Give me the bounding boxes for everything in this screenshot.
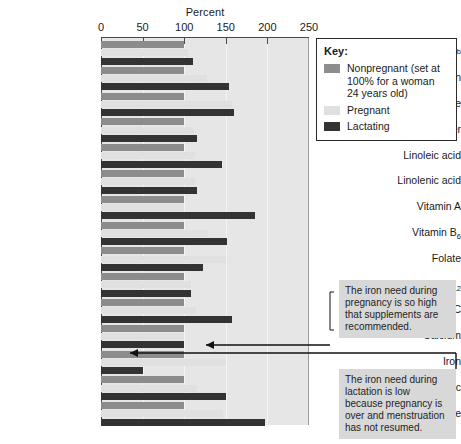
legend-swatch-nonpregnant bbox=[324, 64, 340, 73]
bar bbox=[101, 170, 184, 177]
bar bbox=[101, 161, 222, 168]
bar bbox=[101, 41, 184, 48]
bar bbox=[101, 204, 184, 211]
bar bbox=[101, 307, 196, 314]
category-label-iron: Iron bbox=[362, 356, 461, 367]
x-tick-label-50: 50 bbox=[136, 21, 148, 33]
legend-title: Key: bbox=[324, 45, 449, 57]
bar bbox=[101, 410, 223, 417]
bar bbox=[101, 127, 194, 134]
bar bbox=[101, 281, 191, 288]
bar-group bbox=[101, 325, 309, 349]
bar bbox=[101, 385, 197, 392]
bar bbox=[101, 212, 255, 219]
x-tick-label-100: 100 bbox=[175, 21, 193, 33]
nutrient-needs-bar-chart: Percent 050100150200250 EnergybProteinCa… bbox=[0, 0, 461, 444]
bar bbox=[101, 316, 232, 323]
category-label-linolenic-acid: Linolenic acid bbox=[362, 175, 461, 186]
annotation-iron-pregnancy: The iron need during pregnancy is so hig… bbox=[339, 280, 456, 338]
bar-group bbox=[101, 144, 309, 168]
bar bbox=[101, 109, 234, 116]
bar-group bbox=[101, 402, 309, 426]
legend-item: Pregnant bbox=[324, 104, 449, 117]
bar bbox=[101, 49, 188, 56]
bar bbox=[101, 178, 195, 185]
bar bbox=[101, 402, 184, 409]
category-label-vitamin-b6: Vitamin B6 bbox=[362, 227, 461, 242]
bar bbox=[101, 333, 184, 340]
bar bbox=[101, 419, 265, 426]
bar bbox=[101, 273, 184, 280]
legend-item: Nonpregnant (set at 100% for a woman 24 … bbox=[324, 62, 449, 100]
bar bbox=[101, 83, 229, 90]
bar-group bbox=[101, 67, 309, 91]
bar-group bbox=[101, 41, 309, 65]
bar bbox=[101, 290, 191, 297]
bar bbox=[101, 299, 184, 306]
bar bbox=[101, 75, 207, 82]
bar bbox=[101, 351, 184, 358]
bar-group bbox=[101, 170, 309, 194]
legend-item: Lactating bbox=[324, 120, 449, 133]
x-tick-label-200: 200 bbox=[258, 21, 276, 33]
x-tick-label-250: 250 bbox=[300, 21, 318, 33]
bar bbox=[101, 93, 184, 100]
legend-label: Lactating bbox=[347, 120, 390, 133]
bar bbox=[101, 376, 184, 383]
bar bbox=[101, 144, 184, 151]
bar-group bbox=[101, 196, 309, 220]
bar-group bbox=[101, 93, 309, 117]
bar bbox=[101, 359, 226, 366]
category-label-linoleic-acid: Linoleic acid bbox=[362, 150, 461, 161]
category-label-vitamin-a: Vitamin A bbox=[362, 201, 461, 212]
bar-group bbox=[101, 222, 309, 246]
x-tick-label-150: 150 bbox=[217, 21, 235, 33]
bar bbox=[101, 367, 143, 374]
bar-group bbox=[101, 351, 309, 375]
category-label-folate: Folate bbox=[362, 253, 461, 264]
bar bbox=[101, 135, 197, 142]
bar-group bbox=[101, 376, 309, 400]
bar-group bbox=[101, 247, 309, 271]
bar bbox=[101, 67, 184, 74]
bar-group bbox=[101, 118, 309, 142]
legend-label: Pregnant bbox=[347, 104, 390, 117]
x-axis-tick-labels: 050100150200250 bbox=[0, 21, 461, 35]
bar-group bbox=[101, 299, 309, 323]
bar bbox=[101, 58, 193, 65]
bar bbox=[101, 187, 197, 194]
bar bbox=[101, 101, 232, 108]
annotation-iron-lactation: The iron need during lactation is low be… bbox=[339, 369, 456, 439]
bar bbox=[101, 238, 227, 245]
legend-swatch-lactating bbox=[324, 122, 340, 131]
legend-label: Nonpregnant (set at 100% for a woman 24 … bbox=[347, 62, 449, 100]
bar bbox=[101, 118, 184, 125]
bar bbox=[101, 264, 203, 271]
bar bbox=[101, 222, 184, 229]
legend-swatch-pregnant bbox=[324, 106, 340, 115]
bar-group bbox=[101, 273, 309, 297]
bar bbox=[101, 256, 226, 263]
bar bbox=[101, 196, 184, 203]
bar bbox=[101, 325, 184, 332]
bar bbox=[101, 247, 184, 254]
footnote-marker: b bbox=[457, 47, 461, 56]
bar bbox=[101, 341, 184, 348]
subscript: 6 bbox=[457, 232, 461, 241]
chart-legend: Key: Nonpregnant (set at 100% for a woma… bbox=[316, 38, 457, 141]
x-axis-title: Percent bbox=[101, 6, 309, 18]
bar bbox=[101, 152, 195, 159]
bar bbox=[101, 393, 226, 400]
bar bbox=[101, 230, 208, 237]
plot-area bbox=[101, 37, 309, 425]
x-tick-label-0: 0 bbox=[98, 21, 104, 33]
